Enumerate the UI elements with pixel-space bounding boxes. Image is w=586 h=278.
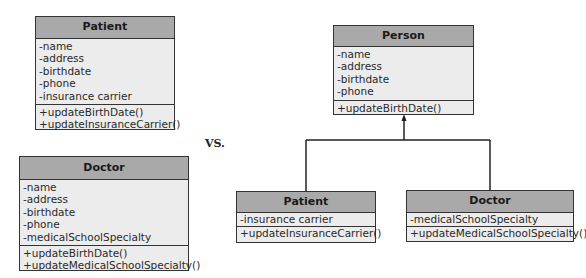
class-name: Patient bbox=[237, 192, 375, 213]
methods-compartment: +updateMedicalSchoolSpecialty() bbox=[407, 227, 573, 241]
attribute: -phone bbox=[337, 85, 470, 97]
doctor-subclass: Doctor -medicalSchoolSpecialty +updateMe… bbox=[406, 190, 574, 242]
methods-compartment: +updateInsuranceCarrier() bbox=[237, 227, 375, 241]
person-superclass: Person -name -address -birthdate -phone … bbox=[333, 25, 474, 115]
attribute: -name bbox=[337, 48, 470, 60]
attributes-compartment: -name -address -birthdate -phone bbox=[334, 47, 473, 101]
method: +updateMedicalSchoolSpecialty() bbox=[410, 227, 570, 239]
methods-compartment: +updateBirthDate() bbox=[334, 101, 473, 116]
attribute: -birthdate bbox=[337, 73, 470, 85]
attribute: -insurance carrier bbox=[240, 213, 372, 225]
generalization-arrow-icon bbox=[402, 114, 407, 140]
class-name: Doctor bbox=[407, 191, 573, 213]
class-name: Person bbox=[334, 26, 473, 47]
method: +updateInsuranceCarrier() bbox=[240, 227, 372, 239]
attributes-compartment: -insurance carrier bbox=[237, 213, 375, 227]
method: +updateBirthDate() bbox=[337, 102, 470, 114]
attribute: -address bbox=[337, 60, 470, 72]
patient-subclass: Patient -insurance carrier +updateInsura… bbox=[236, 191, 376, 243]
attribute: -medicalSchoolSpecialty bbox=[410, 213, 570, 225]
attributes-compartment: -medicalSchoolSpecialty bbox=[407, 213, 573, 227]
